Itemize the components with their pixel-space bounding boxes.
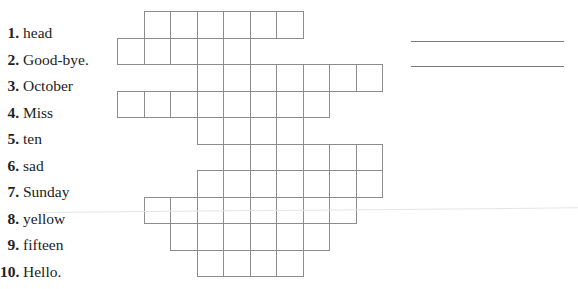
crossword-cell[interactable] — [356, 170, 384, 198]
clue-number: 5. — [0, 130, 19, 148]
crossword-cell[interactable] — [223, 91, 251, 119]
crossword-cell[interactable] — [117, 91, 145, 119]
clue-word: Miss — [23, 104, 53, 121]
clue-number: 9. — [0, 236, 19, 254]
crossword-cell[interactable] — [303, 223, 331, 251]
crossword-cell[interactable] — [223, 11, 251, 39]
crossword-cell[interactable] — [197, 170, 225, 198]
crossword-cell[interactable] — [250, 64, 278, 92]
clue-item: 5.ten — [0, 130, 112, 148]
crossword-cell[interactable] — [303, 91, 331, 119]
crossword-cell[interactable] — [223, 64, 251, 92]
crossword-cell[interactable] — [170, 11, 198, 39]
crossword-cell[interactable] — [223, 223, 251, 251]
clue-number: 7. — [0, 183, 19, 201]
crossword-cell[interactable] — [250, 170, 278, 198]
clue-word: fifteen — [23, 236, 63, 253]
crossword-cell[interactable] — [303, 170, 331, 198]
crossword-cell[interactable] — [197, 64, 225, 92]
clue-number: 2. — [0, 51, 19, 69]
crossword-cell[interactable] — [223, 38, 251, 66]
crossword-cell[interactable] — [223, 250, 251, 278]
crossword-cell[interactable] — [276, 144, 304, 172]
crossword-cell[interactable] — [250, 91, 278, 119]
clue-number: 10. — [0, 263, 19, 281]
crossword-cell[interactable] — [276, 170, 304, 198]
clue-number: 8. — [0, 210, 19, 228]
crossword-cell[interactable] — [303, 144, 331, 172]
clue-word: sad — [23, 157, 44, 174]
crossword-cell[interactable] — [329, 144, 357, 172]
crossword-cell[interactable] — [144, 11, 172, 39]
crossword-cell[interactable] — [197, 117, 225, 145]
crossword-cell[interactable] — [250, 223, 278, 251]
clue-number: 1. — [0, 24, 19, 42]
crossword-cell[interactable] — [329, 170, 357, 198]
crossword-cell[interactable] — [197, 38, 225, 66]
crossword-cell[interactable] — [197, 223, 225, 251]
crossword-cell[interactable] — [144, 91, 172, 119]
crossword-cell[interactable] — [197, 91, 225, 119]
clue-number: 4. — [0, 104, 19, 122]
crossword-cell[interactable] — [276, 11, 304, 39]
crossword-cell[interactable] — [276, 223, 304, 251]
crossword-cell[interactable] — [276, 117, 304, 145]
crossword-cell[interactable] — [276, 250, 304, 278]
clue-word: Hello. — [23, 263, 61, 280]
clue-item: 10.Hello. — [0, 263, 112, 281]
answer-write-line[interactable] — [411, 41, 564, 42]
crossword-cell[interactable] — [144, 38, 172, 66]
crossword-cell[interactable] — [117, 38, 145, 66]
clue-word: ten — [23, 130, 42, 147]
clue-word: Sunday — [23, 183, 70, 200]
clue-number: 6. — [0, 157, 19, 175]
clue-item: 4.Miss — [0, 104, 112, 122]
crossword-cell[interactable] — [250, 117, 278, 145]
crossword-cell[interactable] — [250, 144, 278, 172]
clue-item: 9.fifteen — [0, 236, 112, 254]
crossword-cell[interactable] — [276, 91, 304, 119]
clue-item: 3.October — [0, 77, 112, 95]
crossword-cell[interactable] — [170, 38, 198, 66]
clue-word: Good-bye. — [23, 51, 89, 68]
crossword-cell[interactable] — [197, 250, 225, 278]
clue-word: October — [23, 77, 73, 94]
crossword-cell[interactable] — [197, 11, 225, 39]
clue-item: 2.Good-bye. — [0, 51, 112, 69]
clue-item: 1.head — [0, 24, 112, 42]
crossword-cell[interactable] — [276, 64, 304, 92]
crossword-cell[interactable] — [170, 223, 198, 251]
crossword-cell[interactable] — [329, 64, 357, 92]
crossword-cell[interactable] — [250, 250, 278, 278]
crossword-cell[interactable] — [170, 91, 198, 119]
crossword-cell[interactable] — [356, 64, 384, 92]
clue-word: head — [23, 24, 52, 41]
crossword-cell[interactable] — [303, 64, 331, 92]
crossword-cell[interactable] — [250, 11, 278, 39]
crossword-cell[interactable] — [223, 117, 251, 145]
clue-item: 6.sad — [0, 157, 112, 175]
clue-item: 7.Sunday — [0, 183, 112, 201]
clue-number: 3. — [0, 77, 19, 95]
answer-write-line[interactable] — [411, 66, 564, 67]
crossword-cell[interactable] — [356, 144, 384, 172]
crossword-cell[interactable] — [223, 144, 251, 172]
crossword-cell[interactable] — [223, 170, 251, 198]
